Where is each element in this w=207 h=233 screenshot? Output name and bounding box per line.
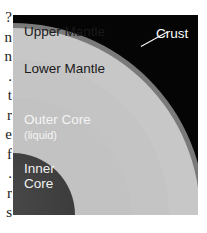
text-fragment: f [0, 145, 12, 165]
text-fragment: . [0, 67, 12, 87]
text-fragment: ? [0, 8, 12, 28]
text-fragment: . [0, 164, 12, 184]
upper-mantle-label: Upper Mantle [24, 25, 105, 39]
cropped-body-text: ? n n . t r e f . r s [0, 8, 12, 223]
text-fragment: e [0, 125, 12, 145]
inner-core-label-line2: Core [24, 176, 55, 191]
earth-layers-diagram: Upper Mantle Lower Mantle Outer Core (li… [13, 15, 198, 215]
text-fragment: r [0, 106, 12, 126]
inner-core-label-line1: Inner [24, 161, 55, 176]
inner-core-label: Inner Core [24, 161, 55, 191]
text-fragment: n [0, 47, 12, 67]
crust-label: Crust [156, 27, 188, 41]
text-fragment: s [0, 203, 12, 223]
text-fragment: t [0, 86, 12, 106]
outer-core-label: Outer Core [24, 113, 91, 127]
lower-mantle-label: Lower Mantle [24, 62, 105, 76]
outer-core-note: (liquid) [24, 128, 57, 142]
text-fragment: n [0, 28, 12, 48]
text-fragment: r [0, 184, 12, 204]
